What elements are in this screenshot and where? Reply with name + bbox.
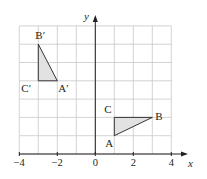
vertex-label: C′ — [21, 82, 31, 94]
y-axis-label: y — [83, 10, 89, 22]
vertex-label: B′ — [35, 29, 45, 41]
vertex-label: B — [155, 110, 162, 122]
coordinate-grid-diagram: −4−2024xyABCA′B′C′ — [0, 0, 207, 179]
vertex-label: A′ — [58, 82, 68, 94]
x-tick-label: 0 — [93, 157, 98, 168]
y-axis-arrow-icon — [93, 15, 98, 22]
vertex-label: C — [104, 103, 111, 115]
vertex-label: A — [105, 137, 113, 149]
x-axis-label: x — [187, 157, 193, 169]
labels: −4−2024xyABCA′B′C′ — [14, 10, 193, 169]
x-tick-label: 2 — [131, 157, 136, 168]
x-tick-label: −2 — [52, 157, 63, 168]
x-tick-label: 4 — [169, 157, 175, 168]
x-tick-label: −4 — [14, 157, 26, 168]
x-axis-arrow-icon — [181, 152, 188, 157]
